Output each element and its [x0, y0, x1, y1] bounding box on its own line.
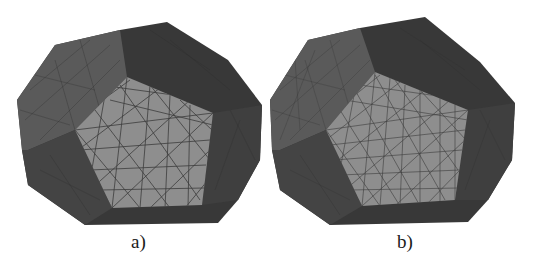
panel-b-caption: b) [397, 232, 413, 251]
figure: a) b) [0, 0, 534, 268]
panel-b-mesh-render [0, 0, 534, 268]
panel-a-caption: a) [131, 232, 146, 251]
